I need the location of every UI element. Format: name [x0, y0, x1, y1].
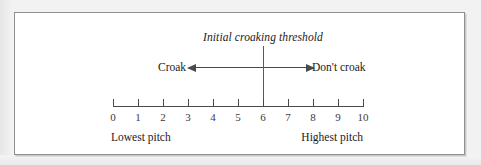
page-edge-shading-bottom [0, 155, 481, 165]
axis-tick [288, 99, 289, 107]
axis-tick [163, 99, 164, 107]
axis-tick-label: 8 [301, 110, 325, 124]
axis-tick [363, 99, 364, 107]
axis-tick-label: 9 [326, 110, 350, 124]
axis-tick [263, 99, 264, 107]
axis-tick-label: 2 [151, 110, 175, 124]
axis-tick-label: 7 [276, 110, 300, 124]
left-arrow-line [195, 67, 263, 68]
axis-tick-label: 10 [351, 110, 375, 124]
lowest-pitch-caption: Lowest pitch [111, 130, 171, 144]
axis-tick [138, 99, 139, 107]
axis-tick-label: 1 [126, 110, 150, 124]
axis-tick [313, 99, 314, 107]
axis-tick-label: 5 [226, 110, 250, 124]
figure-frame: Initial croaking threshold Croak Don't c… [14, 12, 465, 155]
axis-tick-label: 3 [176, 110, 200, 124]
axis-tick [113, 99, 114, 107]
axis-tick [213, 99, 214, 107]
axis-tick-label: 6 [251, 110, 275, 124]
axis-tick-label: 4 [201, 110, 225, 124]
page-edge-shading-left [0, 0, 14, 165]
number-line-diagram: Initial croaking threshold Croak Don't c… [15, 13, 466, 156]
axis-tick-label: 0 [101, 110, 125, 124]
right-arrow-line [264, 67, 306, 68]
threshold-title: Initial croaking threshold [203, 31, 323, 43]
dont-croak-region-label: Don't croak [312, 61, 366, 74]
figure-root: Initial croaking threshold Croak Don't c… [0, 0, 481, 165]
axis-tick [188, 99, 189, 107]
threshold-line [263, 46, 264, 106]
highest-pitch-caption: Highest pitch [301, 130, 363, 144]
axis-tick [238, 99, 239, 107]
croak-region-label: Croak [158, 61, 186, 74]
axis-tick [338, 99, 339, 107]
